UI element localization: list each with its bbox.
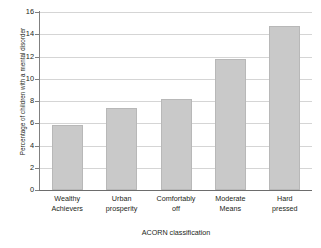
x-axis-category-label: Hardpressed (258, 194, 312, 213)
y-axis-tick-label: 10 (8, 75, 34, 82)
y-axis-tick-mark (35, 168, 39, 169)
x-axis-category-label-line: Comfortably (149, 194, 203, 204)
y-axis-tick-label: 6 (8, 119, 34, 126)
x-axis-line (39, 190, 312, 191)
bar (161, 99, 192, 190)
y-axis-tick-mark (35, 79, 39, 80)
x-axis-title: ACORN classification (40, 228, 312, 237)
bar (106, 108, 137, 190)
bar (52, 125, 83, 190)
bar-chart-figure: Percentage of children with a mental dis… (0, 0, 321, 248)
x-axis-category-label-line: Achievers (40, 204, 94, 214)
x-axis-category-labels: WealthyAchieversUrbanprosperityComfortab… (40, 194, 312, 228)
y-axis-tick-labels: 0246810121416 (0, 0, 34, 248)
x-axis-category-label-line: off (149, 204, 203, 214)
y-axis-tick-label: 14 (8, 30, 34, 37)
x-axis-category-label-line: Hard (258, 194, 312, 204)
y-axis-tick-mark (35, 12, 39, 13)
gridline (40, 12, 312, 13)
y-axis-tick-mark (35, 57, 39, 58)
x-axis-category-label-line: prosperity (94, 204, 148, 214)
y-axis-tick-label: 12 (8, 53, 34, 60)
x-axis-category-label: WealthyAchievers (40, 194, 94, 213)
y-axis-tick-mark (35, 123, 39, 124)
bar (269, 26, 300, 190)
x-axis-category-label: Urbanprosperity (94, 194, 148, 213)
y-axis-tick-mark (35, 146, 39, 147)
y-axis-tick-mark (35, 101, 39, 102)
y-axis-tick-label: 2 (8, 164, 34, 171)
x-axis-category-label-line: Moderate (203, 194, 257, 204)
y-axis-tick-mark (35, 190, 39, 191)
bar (215, 59, 246, 190)
x-axis-category-label-line: Wealthy (40, 194, 94, 204)
y-axis-tick-mark (35, 34, 39, 35)
y-axis-tick-label: 16 (8, 8, 34, 15)
x-axis-category-label: ModerateMeans (203, 194, 257, 213)
y-axis-tick-label: 4 (8, 142, 34, 149)
x-axis-category-label-line: Means (203, 204, 257, 214)
x-axis-category-label-line: Urban (94, 194, 148, 204)
y-axis-tick-label: 8 (8, 97, 34, 104)
plot-area (40, 12, 312, 190)
x-axis-category-label-line: pressed (258, 204, 312, 214)
y-axis-tick-label: 0 (8, 186, 34, 193)
x-axis-category-label: Comfortablyoff (149, 194, 203, 213)
